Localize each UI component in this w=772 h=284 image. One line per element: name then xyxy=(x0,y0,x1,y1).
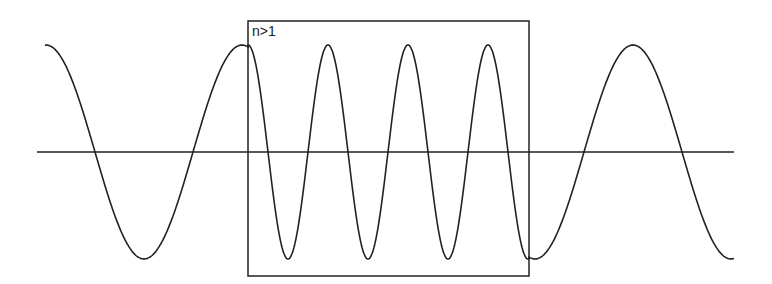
region-label: n>1 xyxy=(252,23,276,39)
wave-diagram xyxy=(0,0,772,284)
